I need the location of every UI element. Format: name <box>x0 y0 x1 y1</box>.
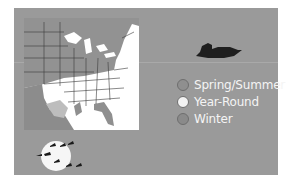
legend-label: Year-Round <box>194 95 259 109</box>
legend-item-winter: Winter <box>177 110 285 127</box>
spring-summer-swatch-icon <box>177 79 189 91</box>
legend-item-spring-summer: Spring/Summer <box>177 76 285 93</box>
range-map-card: Spring/Summer Year-Round Winter <box>14 8 278 175</box>
moon-with-geese-icon <box>34 136 86 176</box>
legend-item-year-round: Year-Round <box>177 93 285 110</box>
winter-swatch-icon <box>177 113 189 125</box>
legend-label: Spring/Summer <box>194 78 285 92</box>
range-map-icon <box>24 18 139 130</box>
legend-label: Winter <box>194 112 232 126</box>
legend: Spring/Summer Year-Round Winter <box>177 76 285 127</box>
duck-icon <box>194 36 244 60</box>
year-round-swatch-icon <box>177 96 189 108</box>
